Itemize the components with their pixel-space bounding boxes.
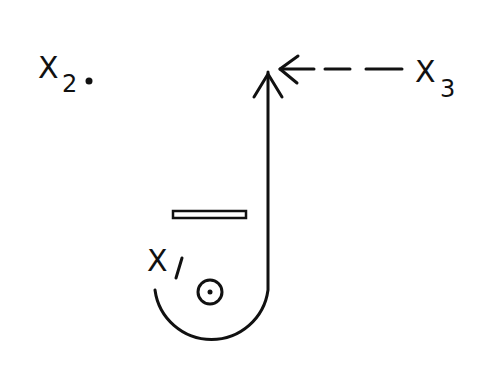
point-x2-dot [86,78,93,85]
label-x3: X 3 [415,54,455,103]
circle-dot-symbol [198,280,222,304]
circle-center-dot [208,290,213,295]
label-x2-subscript: 2 [62,70,77,98]
label-x1-base: X [147,243,168,278]
label-x1: X [147,243,182,278]
double-line-bar [173,211,246,218]
label-x3-base: X [415,54,436,89]
label-x3-subscript: 3 [440,75,455,103]
j-curve-path [155,72,268,339]
label-x2: X 2 [38,50,93,98]
diagram-canvas: X 2 X 3 X [0,0,489,370]
label-x2-base: X [38,50,59,85]
dashed-arrow-from-x3 [280,56,402,83]
label-x1-subscript-stroke [176,258,182,278]
